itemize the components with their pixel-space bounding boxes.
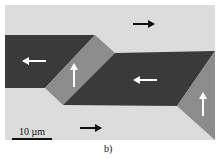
arrow-up-icon: [199, 91, 207, 117]
arrow-up-icon: [70, 62, 78, 88]
arrow-right-icon: [79, 124, 103, 132]
scale-bar: [12, 138, 52, 140]
scale-bar-label: 10 µm: [19, 126, 45, 137]
arrow-left-icon: [132, 76, 158, 84]
arrow-left-icon: [21, 57, 47, 65]
domain-pattern: [5, 5, 215, 140]
arrow-right-icon: [132, 20, 156, 28]
figure-caption: b): [104, 143, 112, 154]
magnetic-domain-image: 10 µm: [5, 5, 215, 140]
